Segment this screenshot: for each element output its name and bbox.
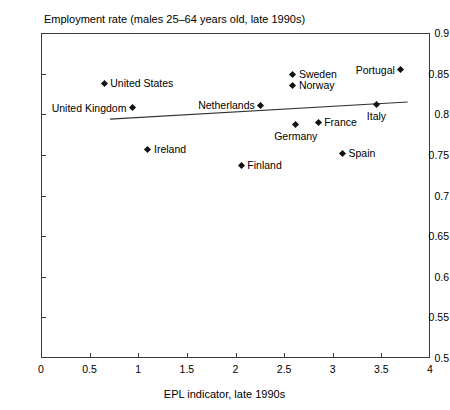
x-tick-label: 3: [313, 364, 353, 375]
x-tick-mark: [90, 353, 91, 358]
data-point-label: United Kingdom: [52, 103, 127, 114]
x-tick-mark: [284, 353, 285, 358]
data-point-label: Ireland: [154, 144, 186, 155]
x-tick-label: 2: [216, 364, 256, 375]
data-point-label: Finland: [247, 160, 281, 171]
data-point-label: Norway: [299, 80, 335, 91]
y-tick-label: 0.5: [415, 353, 449, 364]
data-point-label: Germany: [274, 131, 317, 142]
plot-area: [41, 33, 430, 358]
y-tick-mark: [41, 317, 46, 318]
x-tick-label: 4: [410, 364, 450, 375]
x-tick-label: 1.5: [167, 364, 207, 375]
y-tick-label: 0.65: [415, 231, 449, 242]
x-tick-mark: [187, 353, 188, 358]
y-tick-label: 0.55: [415, 312, 449, 323]
x-axis-title: EPL indicator, late 1990s: [0, 388, 449, 400]
x-tick-mark: [333, 353, 334, 358]
x-tick-mark: [138, 353, 139, 358]
y-tick-label: 0.9: [415, 28, 449, 39]
y-tick-label: 0.7: [415, 191, 449, 202]
chart-title: Employment rate (males 25–64 years old, …: [44, 13, 305, 26]
y-tick-mark: [41, 114, 46, 115]
y-tick-mark: [41, 196, 46, 197]
data-point-label: Spain: [348, 148, 375, 159]
data-point-label: Netherlands: [198, 100, 255, 111]
x-tick-label: 0: [21, 364, 61, 375]
y-tick-label: 0.85: [415, 69, 449, 80]
x-tick-label: 3.5: [361, 364, 401, 375]
x-tick-label: 1: [118, 364, 158, 375]
x-tick-mark: [236, 353, 237, 358]
y-tick-label: 0.8: [415, 109, 449, 120]
y-tick-mark: [41, 236, 46, 237]
data-point-label: United States: [110, 78, 173, 89]
y-tick-label: 0.6: [415, 272, 449, 283]
data-point-label: Portugal: [356, 64, 395, 75]
y-tick-mark: [41, 277, 46, 278]
y-tick-mark: [41, 74, 46, 75]
data-point-label: France: [324, 117, 357, 128]
y-tick-mark: [41, 155, 46, 156]
x-tick-label: 0.5: [70, 364, 110, 375]
data-point-label: Italy: [367, 111, 386, 122]
y-tick-label: 0.75: [415, 150, 449, 161]
x-tick-mark: [381, 353, 382, 358]
x-tick-label: 2.5: [264, 364, 304, 375]
